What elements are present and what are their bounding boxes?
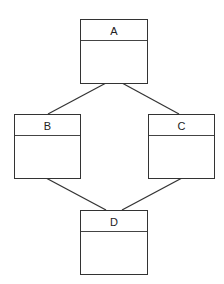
edge-a-c — [122, 83, 179, 114]
edge-a-b — [48, 83, 106, 114]
class-box-d-title: D — [81, 211, 147, 232]
class-box-b-title: B — [15, 115, 80, 136]
class-box-a: A — [80, 19, 148, 84]
class-box-d: D — [80, 210, 148, 275]
edge-c-d — [122, 178, 182, 210]
class-box-a-title: A — [81, 20, 147, 41]
class-box-b: B — [14, 114, 81, 179]
class-box-c-title: C — [149, 115, 214, 136]
edge-b-d — [46, 178, 106, 210]
class-box-c: C — [148, 114, 215, 179]
